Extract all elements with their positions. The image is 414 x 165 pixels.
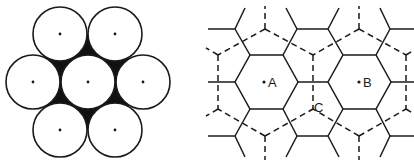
point-b-dot [357,80,360,83]
lattice-figure: A B C [0,0,414,165]
label-b: B [363,75,372,90]
label-a: A [268,75,277,90]
label-c: C [314,100,323,115]
hexagon-a [235,55,298,109]
solid-hex-network [208,8,414,157]
close-packed-circles-panel [6,7,170,157]
point-a-dot [262,80,265,83]
hexagonal-network-panel: A B C [206,6,414,160]
